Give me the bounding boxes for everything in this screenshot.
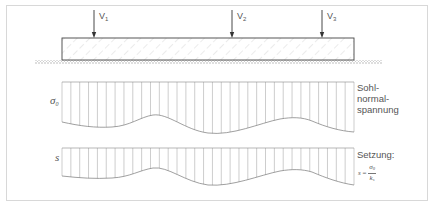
caption-line: Sohl- bbox=[357, 82, 399, 93]
load-label-v3: V3 bbox=[327, 11, 336, 21]
stress-axis-label: σ0 bbox=[50, 95, 58, 105]
caption-line: normal- bbox=[357, 93, 399, 104]
load-arrow-v2 bbox=[230, 10, 234, 38]
settlement-diagram bbox=[62, 148, 354, 185]
formula-fraction: σ0 ks bbox=[368, 163, 376, 184]
load-arrow-v3 bbox=[320, 10, 324, 38]
load-arrow-v1 bbox=[92, 10, 96, 38]
contact-pressure-diagram bbox=[62, 82, 354, 133]
load-label-v1: V1 bbox=[99, 11, 108, 21]
foundation-slab bbox=[62, 38, 354, 60]
stress-caption: Sohl- normal- spannung bbox=[357, 82, 399, 115]
ground-hatching bbox=[35, 60, 382, 64]
caption-line: spannung bbox=[357, 104, 399, 115]
settlement-axis-label: s bbox=[55, 152, 59, 162]
settlement-caption: Setzung: bbox=[357, 149, 395, 160]
formula-equals: = bbox=[362, 169, 366, 177]
settlement-formula: s = σ0 ks bbox=[358, 163, 376, 184]
load-label-v2: V2 bbox=[237, 11, 246, 21]
formula-lhs: s bbox=[358, 169, 361, 177]
